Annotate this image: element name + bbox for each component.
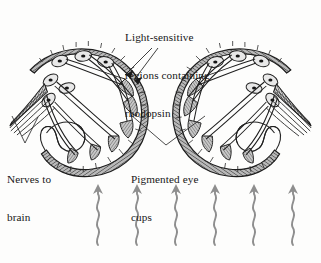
light-ray (214, 190, 216, 245)
label-line: regions containing (125, 69, 210, 82)
label-pigmented-eye-cups: Pigmented eye cups (131, 148, 198, 249)
label-line: rhodopsin (125, 107, 210, 120)
label-line: brain (7, 211, 51, 224)
light-ray (97, 190, 99, 245)
label-line: Pigmented eye (131, 173, 198, 186)
label-line: Light-sensitive (125, 31, 210, 44)
label-light-sensitive-regions: Light-sensitive regions containing rhodo… (125, 6, 210, 145)
eye-cup-diagram: Light-sensitive regions containing rhodo… (0, 0, 321, 263)
label-nerves-to-brain: Nerves to brain (7, 148, 51, 249)
light-ray (292, 190, 294, 245)
label-line: cups (131, 211, 198, 224)
light-ray (253, 190, 255, 245)
label-line: Nerves to (7, 173, 51, 186)
